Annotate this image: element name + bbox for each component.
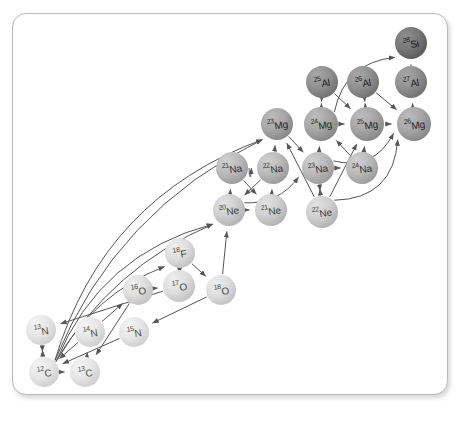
- element-symbol: Na: [359, 163, 373, 176]
- nuclide-15N: 15N: [119, 317, 149, 347]
- nuclide-label: 14N: [82, 323, 99, 341]
- nuclide-label: 18O: [212, 281, 229, 299]
- nuclide-20Ne: 20Ne: [213, 194, 245, 226]
- element-symbol: O: [137, 285, 146, 297]
- element-symbol: Mg: [317, 118, 332, 131]
- nuclide-label: 20Ne: [218, 201, 240, 220]
- reaction-arrow-24Na-to-24Mg: [336, 140, 350, 155]
- nuclide-label: 24Na: [351, 159, 373, 178]
- nuclide-25Al: 25Al: [306, 66, 338, 98]
- nuclide-27Al: 27Al: [395, 66, 427, 98]
- element-symbol: Na: [229, 163, 243, 176]
- reaction-arrow-26Al-to-26Mg: [376, 93, 397, 110]
- element-symbol: O: [220, 285, 229, 297]
- reaction-arrow-18F-to-18O: [192, 264, 206, 277]
- nuclide-13C: 13C: [70, 357, 100, 387]
- element-symbol: Ne: [226, 205, 240, 218]
- nuclide-24Na: 24Na: [346, 152, 378, 184]
- element-symbol: Na: [270, 163, 284, 176]
- nuclide-label: 25Mg: [356, 114, 379, 133]
- nuclide-label: 16O: [129, 281, 146, 299]
- reaction-arrow-24Na-to-25Mg: [364, 146, 365, 151]
- element-symbol: Mg: [410, 118, 425, 131]
- element-symbol: O: [178, 281, 187, 293]
- element-symbol: Na: [315, 163, 329, 176]
- element-symbol: Si: [410, 38, 420, 50]
- nuclide-13N: 13N: [26, 315, 56, 345]
- nuclide-14N: 14N: [75, 317, 105, 347]
- nuclide-18F: 18F: [165, 238, 195, 268]
- nuclide-label: 15N: [126, 323, 143, 341]
- nuclide-label: 22Na: [262, 159, 284, 178]
- reaction-arrow-18O-to-20Ne: [223, 231, 227, 274]
- nuclide-21Na: 21Na: [216, 152, 248, 184]
- nuclide-label: 13C: [77, 363, 94, 381]
- element-symbol: F: [180, 248, 188, 260]
- element-symbol: C: [43, 367, 52, 379]
- element-symbol: Al: [410, 77, 420, 89]
- nuclide-23Mg: 23Mg: [261, 108, 293, 140]
- nuclide-17O: 17O: [163, 270, 195, 302]
- nuclide-22Ne: 22Ne: [306, 196, 338, 228]
- reaction-arrow-23Na-to-22Ne: [320, 185, 321, 191]
- nuclide-26Mg: 26Mg: [397, 107, 431, 141]
- nuclide-label: 23Na: [307, 159, 329, 178]
- reaction-arrow-21Na-to-21Ne: [244, 180, 257, 194]
- nuclide-label: 21Ne: [260, 201, 282, 220]
- nuclide-label: 27Al: [402, 73, 420, 91]
- nuclide-label: 25Al: [313, 73, 331, 91]
- nuclide-23Na: 23Na: [302, 152, 334, 184]
- element-symbol: Mg: [363, 118, 378, 131]
- nuclide-label: 26Mg: [403, 114, 426, 133]
- nuclide-label: 18F: [172, 244, 187, 262]
- element-symbol: Ne: [268, 205, 282, 218]
- element-symbol: Al: [362, 77, 372, 89]
- nuclide-25Mg: 25Mg: [350, 107, 384, 141]
- element-symbol: Mg: [273, 118, 288, 131]
- nuclide-16O: 16O: [123, 275, 153, 305]
- nuclide-label: 13N: [33, 321, 50, 339]
- reaction-arrow-21Na-to-22Na: [249, 168, 252, 177]
- nuclide-label: 26Al: [354, 73, 372, 91]
- reaction-arrow-22Na-to-20Ne: [245, 180, 261, 195]
- nuclide-28Si: 28Si: [395, 27, 427, 59]
- nuclide-label: 23Mg: [266, 114, 289, 133]
- element-symbol: Ne: [319, 207, 333, 220]
- element-symbol: N: [89, 327, 98, 339]
- nuclide-12C: 12C: [29, 357, 59, 387]
- figure-canvas: 12C13C13N14N15N16O17O18O18F20Ne21Ne22Ne2…: [0, 0, 462, 421]
- nuclide-21Ne: 21Ne: [255, 194, 287, 226]
- nuclide-22Na: 22Na: [257, 152, 289, 184]
- nuclide-24Mg: 24Mg: [304, 107, 338, 141]
- reaction-arrow-22Na-to-23Mg: [275, 145, 276, 151]
- nuclide-label: 12C: [36, 363, 53, 381]
- nuclide-label: 24Mg: [310, 114, 333, 133]
- element-symbol: N: [40, 325, 49, 337]
- nuclide-label: 22Ne: [311, 203, 333, 222]
- element-symbol: C: [84, 367, 93, 379]
- nuclide-label: 17O: [170, 277, 187, 295]
- element-symbol: Al: [321, 77, 331, 89]
- nuclide-label: 28Si: [402, 34, 420, 52]
- nuclide-26Al: 26Al: [347, 66, 379, 98]
- nuclide-18O: 18O: [206, 275, 236, 305]
- nuclide-label: 21Na: [221, 159, 243, 178]
- element-symbol: N: [133, 327, 142, 339]
